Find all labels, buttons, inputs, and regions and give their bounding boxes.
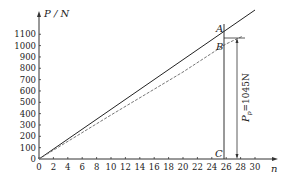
- svg-text:400: 400: [20, 109, 36, 119]
- y-axis-label: P / N: [43, 8, 70, 19]
- pp-value-label: Pp=1045N: [240, 73, 253, 123]
- svg-text:100: 100: [20, 143, 36, 153]
- svg-text:4: 4: [65, 162, 70, 172]
- svg-text:0: 0: [31, 154, 36, 164]
- point-a-label: A: [215, 23, 223, 34]
- svg-text:28: 28: [235, 162, 246, 172]
- x-axis-label: n: [271, 163, 277, 174]
- svg-text:16: 16: [149, 162, 160, 172]
- svg-text:200: 200: [20, 131, 36, 141]
- point-c-label: C: [215, 148, 223, 159]
- svg-text:8: 8: [94, 162, 99, 172]
- y-axis-arrow-icon: [37, 11, 41, 17]
- svg-text:900: 900: [20, 52, 36, 62]
- svg-text:0: 0: [36, 162, 41, 172]
- svg-text:Pp=1045N: Pp=1045N: [240, 73, 253, 123]
- svg-text:26: 26: [221, 162, 232, 172]
- svg-text:30: 30: [250, 162, 261, 172]
- svg-text:14: 14: [134, 162, 145, 172]
- svg-text:800: 800: [20, 63, 36, 73]
- chart: 024681012141618202224262830 010020030040…: [0, 0, 289, 182]
- x-axis-arrow-icon: [272, 157, 278, 161]
- point-b-label: B: [215, 41, 223, 52]
- y-ticks: 010020030040050060070080090010001100: [14, 29, 41, 164]
- svg-text:12: 12: [120, 162, 131, 172]
- svg-text:300: 300: [20, 120, 36, 130]
- svg-text:18: 18: [163, 162, 174, 172]
- pp-arrow-up-icon: [236, 38, 239, 43]
- series-dashed-line: [39, 36, 243, 159]
- svg-text:600: 600: [20, 86, 36, 96]
- svg-text:1100: 1100: [14, 29, 36, 39]
- svg-text:10: 10: [106, 162, 117, 172]
- svg-text:24: 24: [206, 162, 217, 172]
- pp-arrow-down-icon: [236, 154, 239, 159]
- svg-text:20: 20: [178, 162, 189, 172]
- svg-text:2: 2: [51, 162, 56, 172]
- svg-text:6: 6: [79, 162, 84, 172]
- svg-text:1000: 1000: [14, 41, 36, 51]
- svg-text:700: 700: [20, 75, 36, 85]
- svg-text:22: 22: [192, 162, 203, 172]
- svg-text:500: 500: [20, 97, 36, 107]
